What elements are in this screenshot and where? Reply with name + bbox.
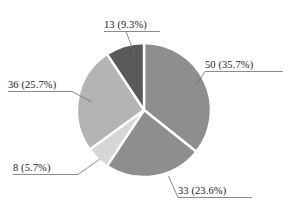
- pie-label-50: 50 (35.7%): [205, 59, 253, 71]
- pie-label-33: 33 (23.6%): [178, 185, 226, 197]
- pie-chart: 13 (9.3%) 50 (35.7%) 33 (23.6%) 8 (5.7%)…: [0, 0, 289, 214]
- pie-slices: [77, 43, 211, 177]
- leader-line-50: [196, 72, 283, 86]
- pie-label-36: 36 (25.7%): [8, 79, 56, 91]
- pie-label-13: 13 (9.3%): [104, 19, 147, 31]
- pie-chart-graphic: [0, 0, 289, 214]
- pie-label-8: 8 (5.7%): [13, 162, 51, 174]
